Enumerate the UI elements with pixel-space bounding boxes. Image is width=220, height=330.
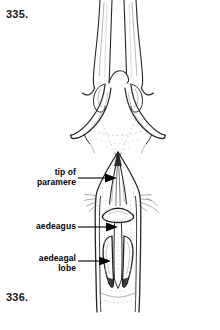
callout-label-aedeagus: aedeagus xyxy=(10,221,76,231)
arrowhead-tip-of-paramere xyxy=(105,173,117,182)
callout-label-tip-of-paramere: tip of paramere xyxy=(10,167,76,187)
callout-label-aedeagal-lobe: aedeagal lobe xyxy=(10,253,76,273)
figure-plate: 335. tip of paramere aedeagus aedeagal l… xyxy=(0,0,220,330)
figure-number-336: 336. xyxy=(6,291,28,303)
figure-336-drawing xyxy=(85,152,159,312)
arrowhead-aedeagus xyxy=(106,222,118,231)
plate-artwork xyxy=(0,0,220,330)
figure-number-335: 335. xyxy=(6,8,28,20)
figure-335-drawing xyxy=(71,0,165,161)
